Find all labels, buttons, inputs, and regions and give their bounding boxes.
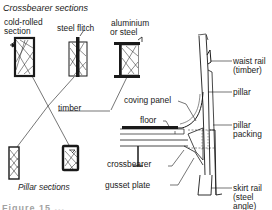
pillar-section-2-icon [63, 146, 78, 170]
cold-rolled-section-icon [10, 38, 34, 76]
pillar-assembly-icon [120, 34, 222, 195]
steel-flitch-section-icon [69, 30, 87, 77]
cold-rolled-label-2: section [4, 27, 31, 37]
timber-label: timber [58, 104, 81, 114]
gusset-plate-label: gusset plate [105, 181, 150, 191]
aluminium-section-icon [114, 37, 142, 78]
coving-panel-label: coving panel [124, 96, 171, 106]
steel-flitch-label: steel flitch [57, 24, 94, 34]
aluminium-label-2: or steel [110, 28, 137, 38]
waist-rail-label-2: (timber) [233, 66, 262, 76]
pillar-sections-title: Pillar sections [18, 183, 70, 193]
figure-caption-partial: Figure 15 ... [2, 203, 65, 210]
crossbearer-label: crossbearer [107, 160, 151, 170]
crossbearer-sections-title: Crossbearer sections [3, 4, 88, 14]
pillar-packing-label-2: packing [233, 130, 262, 140]
pillar-section-1-icon [9, 147, 19, 179]
pillar-label: pillar [233, 88, 251, 98]
floor-label: floor [140, 116, 156, 126]
skirt-rail-label-3: angle) [233, 202, 256, 210]
